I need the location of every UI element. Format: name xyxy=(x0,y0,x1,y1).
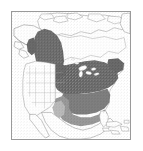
scan-speckle-overlay xyxy=(12,12,130,139)
north-america-map xyxy=(12,12,130,139)
range-map-figure: North America species distribution map xyxy=(0,0,143,151)
map-border: North America species distribution map xyxy=(11,11,131,140)
